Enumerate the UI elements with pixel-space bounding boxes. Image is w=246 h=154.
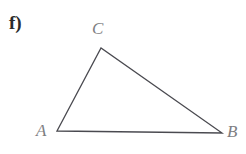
figure-canvas: f) C A B <box>0 0 246 154</box>
vertex-label-b: B <box>227 123 237 141</box>
vertex-label-c: C <box>92 20 103 38</box>
vertex-label-a: A <box>36 122 46 140</box>
triangle-shape <box>57 48 222 133</box>
